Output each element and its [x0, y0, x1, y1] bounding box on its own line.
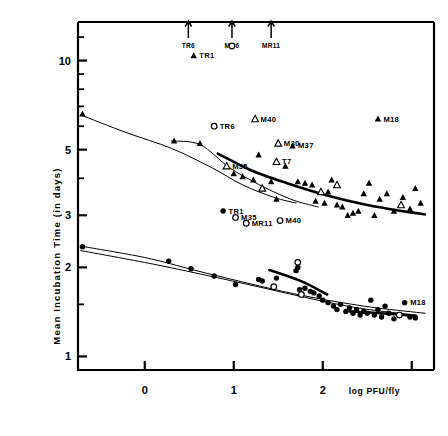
marker-filled-triangle — [312, 198, 318, 204]
y-tick-label: 10 — [59, 55, 71, 67]
marker-filled-circle — [302, 286, 307, 291]
marker-filled-circle — [260, 278, 265, 283]
y-tick-label: 2 — [65, 261, 71, 273]
marker-filled-circle — [413, 315, 418, 320]
y-tick-label: 1 — [65, 350, 71, 362]
data-point-label: M18 — [383, 115, 399, 124]
marker-filled-circle — [382, 303, 387, 308]
marker-filled-triangle — [250, 177, 256, 183]
marker-filled-triangle — [375, 116, 381, 122]
marker-filled-triangle — [231, 170, 237, 176]
marker-open-circle — [396, 312, 402, 318]
marker-filled-triangle — [344, 212, 350, 218]
marker-filled-circle — [391, 316, 396, 321]
x-tick-label: 2 — [320, 384, 326, 396]
marker-filled-circle — [188, 266, 193, 271]
marker-filled-triangle — [412, 185, 418, 191]
marker-filled-triangle — [197, 140, 203, 146]
marker-filled-circle — [80, 244, 85, 249]
marker-open-triangle — [252, 115, 259, 121]
marker-filled-circle — [365, 311, 370, 316]
marker-filled-triangle — [334, 202, 340, 208]
marker-filled-triangle — [295, 178, 301, 184]
fit-curve-upper-circle-fit — [81, 246, 425, 313]
marker-filled-circle — [220, 208, 225, 213]
marker-filled-circle — [316, 293, 321, 298]
y-axis-title: Mean Incubation Time (in days) — [51, 167, 62, 344]
data-point-label: TR1 — [199, 51, 215, 60]
marker-filled-circle — [320, 297, 325, 302]
x-axis-title: log PFU/fly — [349, 386, 400, 396]
marker-filled-circle — [354, 307, 359, 312]
marker-filled-triangle — [384, 190, 390, 196]
marker-filled-circle — [334, 307, 339, 312]
marker-open-circle — [295, 260, 301, 266]
marker-open-triangle — [273, 158, 280, 164]
marker-filled-triangle — [355, 208, 361, 214]
marker-filled-triangle — [400, 194, 406, 200]
top-arrow — [185, 21, 191, 38]
marker-filled-triangle — [191, 52, 197, 58]
marker-filled-circle — [379, 314, 384, 319]
marker-open-circle — [277, 218, 283, 224]
marker-filled-circle — [233, 282, 238, 287]
marker-filled-circle — [368, 297, 373, 302]
marker-filled-triangle — [360, 190, 366, 196]
data-point-label: TR6 — [220, 122, 235, 131]
scatter-plot-svg: 123510012log PFU/flyMean Incubation Time… — [0, 0, 448, 436]
marker-filled-circle — [325, 300, 330, 305]
chart-root: 123510012log PFU/flyMean Incubation Time… — [0, 0, 448, 436]
x-tick-label: 0 — [142, 384, 148, 396]
fit-curve-lower-circle-fit — [81, 251, 417, 316]
marker-open-circle — [229, 43, 235, 49]
y-tick-label: 5 — [65, 144, 71, 156]
marker-filled-circle — [372, 312, 377, 317]
fit-curve-lower-triangle-fit — [171, 141, 318, 207]
data-point-label: T7 — [282, 157, 291, 166]
marker-filled-circle — [311, 290, 316, 295]
data-point-label: M40 — [286, 216, 302, 225]
marker-filled-circle — [274, 275, 279, 280]
marker-filled-circle — [386, 311, 391, 316]
marker-open-triangle — [318, 188, 325, 194]
marker-open-circle — [271, 284, 277, 290]
data-point-label: M37 — [298, 141, 314, 150]
marker-filled-triangle — [255, 151, 261, 157]
top-arrow — [268, 21, 274, 38]
marker-filled-triangle — [339, 204, 345, 210]
marker-open-circle — [299, 292, 305, 298]
marker-filled-circle — [375, 307, 380, 312]
marker-filled-triangle — [325, 188, 331, 194]
marker-open-circle — [211, 123, 217, 129]
marker-filled-triangle — [417, 200, 423, 206]
data-point-label: M40 — [261, 115, 277, 124]
marker-filled-triangle — [309, 182, 315, 188]
top-arrow-label: MR11 — [262, 42, 280, 49]
top-arrow-label: TR6 — [182, 42, 195, 49]
x-tick-label: 1 — [231, 384, 237, 396]
y-tick-label: 3 — [65, 209, 71, 221]
marker-open-circle — [243, 220, 249, 226]
marker-filled-triangle — [321, 200, 327, 206]
marker-open-triangle — [398, 201, 405, 207]
marker-open-triangle — [275, 140, 282, 146]
marker-filled-triangle — [366, 180, 372, 186]
marker-filled-triangle — [407, 206, 413, 212]
data-point-label: MR11 — [252, 219, 274, 228]
marker-filled-circle — [347, 305, 352, 310]
marker-filled-circle — [407, 314, 412, 319]
marker-filled-triangle — [371, 212, 377, 218]
marker-filled-triangle — [302, 180, 308, 186]
marker-filled-circle — [338, 302, 343, 307]
marker-filled-circle — [402, 300, 407, 305]
fit-curve-bold-triangle-fit — [218, 154, 425, 215]
top-arrow — [229, 21, 235, 38]
marker-filled-triangle — [350, 210, 356, 216]
marker-filled-triangle — [377, 196, 383, 202]
data-point-label: M30 — [284, 139, 300, 148]
data-point-label: M35 — [232, 162, 248, 171]
marker-filled-triangle — [79, 111, 85, 117]
marker-filled-circle — [166, 258, 171, 263]
marker-filled-circle — [211, 273, 216, 278]
data-point-label: M18 — [410, 298, 426, 307]
